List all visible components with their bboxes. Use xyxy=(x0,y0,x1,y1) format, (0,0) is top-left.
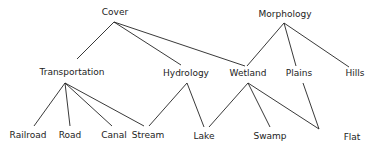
edge-morphology-hills xyxy=(284,23,349,67)
node-wetland: Wetland xyxy=(230,68,267,78)
edge-cover-transportation xyxy=(77,22,114,59)
edge-hydrology-stream xyxy=(149,83,187,126)
edge-cover-hydrology xyxy=(114,22,181,65)
hierarchy-diagram: CoverMorphologyTransportationHydrologyWe… xyxy=(0,0,375,149)
edge-hydrology-lake xyxy=(187,83,204,127)
node-hydrology: Hydrology xyxy=(163,68,210,78)
node-railroad: Railroad xyxy=(10,130,47,140)
node-plains: Plains xyxy=(286,68,313,78)
node-flat: Flat xyxy=(344,132,361,142)
edge-plains-flat xyxy=(303,83,319,129)
node-hills: Hills xyxy=(346,68,365,78)
node-swamp: Swamp xyxy=(253,131,286,141)
node-canal: Canal xyxy=(101,130,127,140)
node-group: CoverMorphologyTransportationHydrologyWe… xyxy=(10,7,365,142)
node-lake: Lake xyxy=(194,131,215,141)
node-morphology: Morphology xyxy=(259,9,313,19)
node-stream: Stream xyxy=(132,130,165,140)
node-cover: Cover xyxy=(102,7,129,17)
diagram-canvas: CoverMorphologyTransportationHydrologyWe… xyxy=(0,0,375,149)
edge-transportation-railroad xyxy=(34,83,65,126)
edge-wetland-flat xyxy=(248,83,319,129)
node-transportation: Transportation xyxy=(39,67,105,77)
edge-transportation-road xyxy=(65,83,70,126)
edge-wetland-lake xyxy=(209,83,248,127)
edge-morphology-wetland xyxy=(247,23,284,66)
node-road: Road xyxy=(59,130,82,140)
edge-cover-wetland xyxy=(114,22,245,66)
